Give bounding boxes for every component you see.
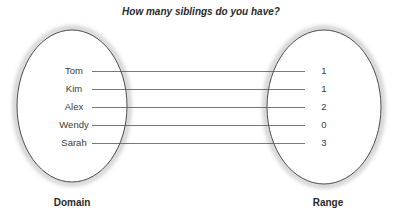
domain-label: Domain: [32, 197, 112, 208]
domain-item: Sarah: [49, 137, 99, 149]
domain-item: Kim: [49, 83, 99, 95]
range-item: 2: [316, 101, 332, 113]
domain-item: Tom: [49, 65, 99, 77]
range-item: 3: [316, 137, 332, 149]
range-item: 1: [316, 83, 332, 95]
range-item: 0: [316, 119, 332, 131]
domain-item: Wendy: [49, 119, 99, 131]
range-label: Range: [288, 197, 368, 208]
range-item: 1: [316, 65, 332, 77]
domain-item: Alex: [49, 101, 99, 113]
